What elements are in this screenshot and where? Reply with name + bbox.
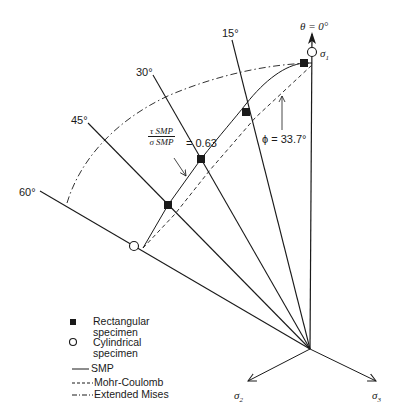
legend-rect-label: Rectangular specimen	[93, 316, 150, 338]
ratio-pointer	[174, 158, 186, 176]
legend-square-icon	[70, 319, 76, 325]
sigma1-axis	[310, 34, 312, 349]
sigma1-label: σ1	[320, 47, 329, 64]
diagram-canvas	[0, 0, 402, 419]
cyl-point-0	[308, 48, 317, 57]
radial-line-15	[232, 40, 310, 349]
angle-label-15: 15°	[222, 27, 239, 39]
rect-point-45	[164, 201, 172, 209]
sigma2-label: σ2	[234, 389, 243, 406]
ratio-fraction: τ SMP σ SMP	[148, 126, 175, 147]
sigma2-axis	[248, 349, 310, 381]
angle-label-30: 30°	[136, 66, 153, 78]
radial-line-60	[40, 191, 310, 349]
legend-smp-label: SMP	[91, 363, 114, 374]
angle-label-60: 60°	[19, 186, 36, 198]
ratio-value: = 0.63	[186, 137, 217, 149]
legend-circle-icon	[70, 339, 77, 346]
ratio-numerator: τ SMP	[148, 126, 175, 137]
legend-mohr-label: Mohr-Coulomb	[94, 377, 163, 388]
rect-point-15	[242, 108, 250, 116]
theta-label: θ = 0°	[300, 20, 328, 32]
angle-label-45: 45°	[71, 114, 88, 126]
phi-label: ϕ = 33.7°	[262, 133, 307, 145]
legend-mises-label: Extended Mises	[94, 389, 169, 400]
smp-curve	[143, 63, 312, 248]
rect-point-30	[197, 155, 205, 163]
legend-cyl-label: Cylindrical specimen	[93, 337, 141, 359]
sigma3-axis	[310, 349, 376, 381]
ratio-denominator: σ SMP	[148, 137, 175, 147]
mohr-coulomb-curve	[143, 65, 312, 248]
rect-point-0	[300, 59, 308, 67]
sigma3-label: σ3	[372, 389, 381, 406]
cyl-point-60	[130, 242, 139, 251]
